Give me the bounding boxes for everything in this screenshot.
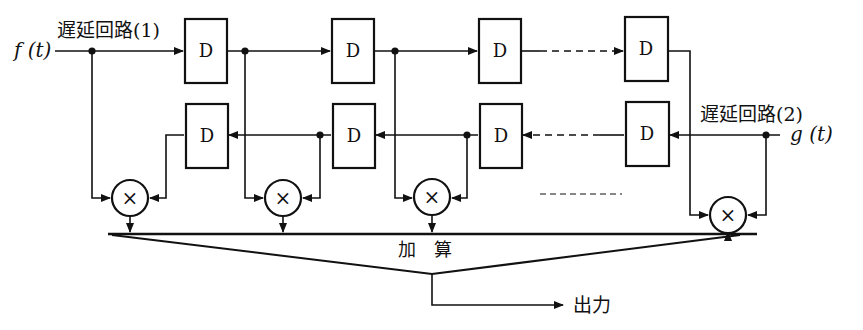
delay-line-1-label: 遅延回路(1) (57, 21, 160, 40)
multiplier-icon-3: × (414, 187, 450, 207)
multiplier-icon-4: × (710, 205, 746, 225)
delay-box-bottom-1: D (186, 127, 228, 145)
delay-box-bottom-4: D (626, 125, 668, 143)
multiplier-icon-2: × (265, 188, 301, 208)
adder-label: 加 算 (398, 241, 452, 259)
delay-box-bottom-3: D (480, 127, 522, 145)
delay-line-2-label: 遅延回路(2) (700, 105, 803, 124)
delay-box-top-4: D (625, 40, 667, 58)
input-f-label: f (t) (14, 40, 51, 60)
delay-box-top-1: D (185, 42, 227, 60)
output-label: 出力 (573, 296, 611, 315)
multiplier-icon-1: × (112, 188, 148, 208)
delay-box-top-3: D (479, 42, 521, 60)
delay-box-top-2: D (332, 42, 374, 60)
delay-box-bottom-2: D (333, 127, 375, 145)
input-g-label: g (t) (790, 124, 833, 144)
correlator-diagram (0, 0, 863, 330)
